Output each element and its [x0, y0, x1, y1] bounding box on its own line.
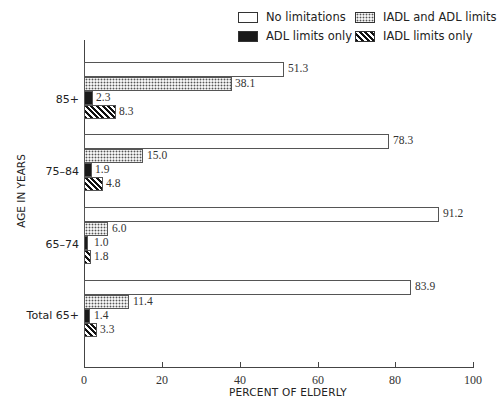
x-tick: [162, 362, 163, 367]
bar-85-iadl-only: [84, 105, 116, 119]
legend-swatch-black: [238, 31, 258, 42]
value-label: 38.1: [235, 77, 255, 89]
value-label: 4.8: [106, 177, 120, 189]
bar-65-74-no-limitations: [84, 207, 439, 222]
x-tick: [84, 362, 85, 367]
legend-swatch-hatched: [355, 31, 375, 42]
bar-total-no-limitations: [84, 280, 411, 295]
x-tick: [395, 362, 396, 367]
bar-85-iadl-and-adl: [84, 77, 232, 91]
bar-75-84-no-limitations: [84, 134, 389, 149]
legend-item-iadl-and-adl: IADL and ADL limits: [355, 10, 497, 24]
category-label-total-65-plus: Total 65+: [27, 309, 79, 322]
bar-total-adl-only: [84, 309, 90, 323]
value-label: 2.3: [96, 91, 110, 103]
value-label: 6.0: [112, 222, 126, 234]
legend-swatch-dotted: [355, 12, 375, 23]
legend-label: IADL and ADL limits: [383, 10, 497, 24]
bar-65-74-adl-only: [84, 236, 88, 250]
value-label: 91.2: [443, 207, 463, 219]
bar-65-74-iadl-and-adl: [84, 222, 108, 236]
bar-85-no-limitations: [84, 62, 284, 77]
x-tick-label: 0: [81, 373, 87, 388]
value-label: 1.9: [95, 163, 109, 175]
x-axis-title: PERCENT OF ELDERLY: [229, 386, 347, 398]
legend-swatch-white: [238, 12, 258, 23]
y-axis-title: AGE IN YEARS: [15, 136, 27, 246]
legend-label: ADL limits only: [266, 29, 352, 43]
x-tick-label: 80: [389, 373, 401, 388]
legend-item-adl-only: ADL limits only: [238, 29, 352, 43]
value-label: 15.0: [147, 149, 167, 161]
x-tick-label: 20: [156, 373, 168, 388]
x-tick: [240, 362, 241, 367]
bar-75-84-iadl-and-adl: [84, 149, 143, 163]
legend-label: No limitations: [266, 10, 346, 24]
bar-75-84-adl-only: [84, 163, 92, 177]
bar-total-iadl-only: [84, 323, 97, 337]
value-label: 1.0: [94, 236, 108, 248]
value-label: 1.8: [94, 250, 108, 262]
bar-total-iadl-and-adl: [84, 295, 129, 309]
bar-65-74-iadl-only: [84, 250, 91, 264]
value-label: 3.3: [100, 323, 114, 335]
value-label: 11.4: [133, 295, 153, 307]
value-label: 83.9: [415, 280, 435, 292]
value-label: 51.3: [288, 62, 308, 74]
bar-85-adl-only: [84, 91, 93, 105]
category-label-65-74: 65–74: [46, 238, 80, 251]
legend-item-iadl-only: IADL limits only: [355, 29, 472, 43]
value-label: 78.3: [393, 134, 413, 146]
category-label-85-plus: 85+: [56, 93, 79, 106]
bar-75-84-iadl-only: [84, 177, 103, 191]
value-label: 8.3: [119, 105, 133, 117]
value-label: 1.4: [94, 309, 108, 321]
x-tick: [473, 362, 474, 367]
category-label-75-84: 75–84: [46, 165, 80, 178]
x-tick-label: 100: [464, 373, 482, 388]
x-tick: [318, 362, 319, 367]
legend-item-no-limitations: No limitations: [238, 10, 346, 24]
x-axis-line: [84, 367, 474, 368]
legend-label: IADL limits only: [383, 29, 472, 43]
